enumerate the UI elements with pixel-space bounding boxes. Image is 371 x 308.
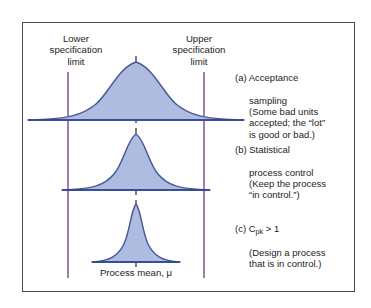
caption-c-head-pre: (c) C	[235, 223, 256, 234]
distribution-curve-a	[28, 62, 244, 120]
lower-specification-limit-label: Lower specification limit	[33, 33, 119, 67]
distribution-curve-b	[62, 134, 210, 190]
caption-c-body: (Design a process that is in control.)	[235, 247, 353, 270]
caption-b: (b) Statistical process control (Keep th…	[235, 133, 353, 212]
process-mean-label: Process mean, μ	[80, 267, 192, 278]
distribution-curve-c	[92, 204, 180, 262]
caption-c: (c) Cpk > 1 (Design a process that is in…	[235, 212, 353, 281]
caption-c-head-post: > 1	[263, 223, 279, 234]
caption-a-head: (a) Acceptance	[235, 72, 298, 83]
upper-specification-limit-label: Upper specification limit	[156, 33, 242, 67]
caption-b-body: process control (Keep the process “in co…	[235, 167, 353, 201]
process-capability-figure: Lower specification limit Upper specific…	[0, 0, 371, 308]
caption-c-head-subscript: pk	[256, 227, 264, 236]
caption-b-head: (b) Statistical	[235, 144, 290, 155]
